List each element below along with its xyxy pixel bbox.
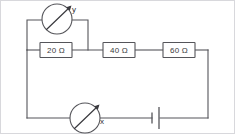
- meter-x-label: x: [100, 117, 104, 126]
- meter-y-label: y: [72, 5, 76, 14]
- battery: [152, 107, 159, 129]
- resistor-40-ohm-label: 40 Ω: [110, 46, 128, 55]
- resistor-20-ohm-label: 20 Ω: [47, 46, 65, 55]
- circuit-schematic: 20 Ω 40 Ω 60 Ω y x: [0, 0, 235, 134]
- circuit-diagram-canvas: 20 Ω 40 Ω 60 Ω y x: [0, 0, 235, 134]
- meter-x: [70, 103, 100, 133]
- wire-ymeter-right-lead: [72, 20, 88, 50]
- meter-y: [42, 4, 72, 34]
- resistor-60-ohm-label: 60 Ω: [170, 46, 188, 55]
